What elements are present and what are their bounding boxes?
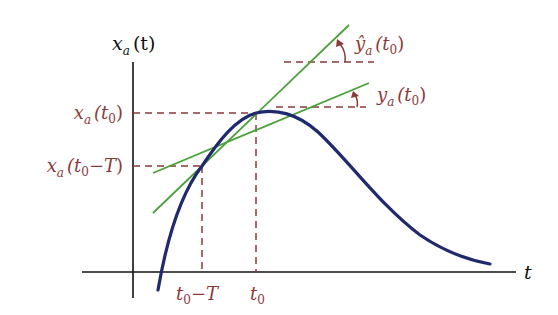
- signal-curve: [158, 111, 490, 290]
- x-axis-label: t: [524, 261, 532, 283]
- y-tick-xa-t0: xa(t0): [74, 102, 123, 127]
- arrowhead-yhat-icon: [336, 39, 344, 47]
- x-tick-t0-minus-T: t0−T: [176, 283, 220, 307]
- x-tick-t0: t0: [250, 283, 265, 307]
- y-axis-label: xa(t): [112, 32, 155, 58]
- arrowhead-ya-icon: [351, 91, 359, 98]
- secant-line-shallow: [153, 83, 369, 173]
- tangent-line-steep: [153, 25, 349, 213]
- label-yhat-a-t0: ŷa(t0): [354, 33, 404, 58]
- slope-diagram: xa(t) t xa(t0) xa(t0−T) t0−T t0 ŷa(t0) y…: [0, 0, 558, 315]
- angle-arc-yhat-icon: [340, 44, 345, 62]
- label-y-a-t0: ya(t0): [376, 84, 426, 109]
- y-tick-xa-t0-minus-T: xa(t0−T): [47, 155, 123, 180]
